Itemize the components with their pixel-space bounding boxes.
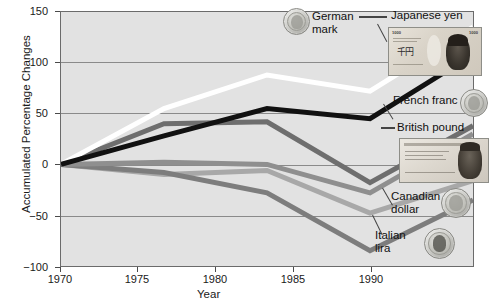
banknote-microprint bbox=[393, 38, 421, 39]
annotation-german-mark-line1: German bbox=[312, 10, 354, 23]
annotation-german-mark-line2: mark bbox=[312, 23, 354, 36]
banknote-japanese-yen-icon: 1000 1000 千円 bbox=[388, 27, 482, 76]
coin-face bbox=[291, 15, 303, 29]
x-tick-mark bbox=[60, 267, 61, 272]
coin-french-franc-icon bbox=[460, 89, 488, 117]
x-tick-mark bbox=[215, 267, 216, 272]
banknote-watermark bbox=[427, 35, 442, 66]
annotation-german-mark: German mark bbox=[312, 10, 354, 35]
x-tick-label-1990: 1990 bbox=[341, 274, 401, 285]
annotation-canadian-dollar-line1: Canadian bbox=[391, 190, 440, 203]
y-axis-title: Accumulated Percentage Changes bbox=[20, 24, 32, 224]
leader-german-mark bbox=[359, 16, 387, 18]
chart-root: 150 100 50 0 −50 −100 Accumulated Percen… bbox=[0, 0, 497, 306]
banknote-portrait-crown bbox=[460, 142, 480, 151]
annotation-canadian-dollar: Canadian dollar bbox=[391, 190, 440, 215]
annotation-italian-lira: Italian lira bbox=[375, 229, 406, 254]
annotation-canadian-dollar-line2: dollar bbox=[391, 203, 440, 216]
banknote-microprint bbox=[393, 41, 417, 42]
x-tick-label-1980: 1980 bbox=[185, 274, 245, 285]
x-tick-label-1975: 1975 bbox=[107, 274, 167, 285]
coin-face bbox=[433, 235, 447, 251]
annotation-italian-lira-line1: Italian bbox=[375, 229, 406, 242]
x-tick-mark bbox=[293, 267, 294, 272]
banknote-microprint bbox=[405, 172, 455, 173]
banknote-microprint bbox=[405, 159, 446, 160]
annotation-french-franc-line1: French franc bbox=[393, 94, 458, 107]
coin-canadian-dollar-icon bbox=[441, 188, 471, 218]
banknote-microprint bbox=[405, 151, 449, 152]
coin-face bbox=[449, 195, 462, 211]
annotation-british-pound-line1: British pound bbox=[397, 121, 464, 134]
x-tick-mark bbox=[137, 267, 138, 272]
banknote-kanji: 千円 bbox=[397, 45, 413, 58]
banknote-british-pound-icon bbox=[399, 138, 489, 183]
coin-face bbox=[468, 96, 481, 111]
coin-italian-lira-icon bbox=[424, 228, 455, 259]
banknote-microprint bbox=[393, 64, 423, 65]
annotation-french-franc: French franc bbox=[393, 94, 458, 107]
banknote-denomination-right: 1000 bbox=[469, 30, 478, 35]
banknote-microprint bbox=[405, 155, 443, 156]
coin-german-mark-icon bbox=[283, 8, 310, 35]
annotation-japanese-yen: Japanese yen bbox=[391, 9, 463, 22]
annotation-british-pound: British pound bbox=[397, 121, 464, 134]
x-tick-label-1970: 1970 bbox=[30, 274, 90, 285]
x-tick-mark bbox=[371, 267, 372, 272]
x-axis-title: Year bbox=[197, 288, 220, 300]
y-tick-label-150: 150 bbox=[0, 6, 48, 17]
leader-british-pound bbox=[381, 127, 395, 129]
banknote-portrait-hair bbox=[448, 34, 468, 46]
annotation-italian-lira-line2: lira bbox=[375, 242, 406, 255]
annotation-japanese-yen-line1: Japanese yen bbox=[391, 9, 463, 22]
x-tick-label-1985: 1985 bbox=[263, 274, 323, 285]
y-tick-label-neg100: −100 bbox=[0, 262, 48, 273]
banknote-denomination-left: 1000 bbox=[392, 30, 401, 35]
